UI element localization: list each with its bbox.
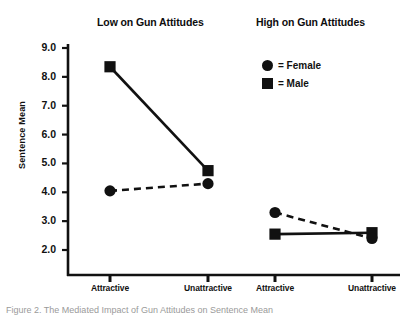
x-tick-label: Unattractive <box>184 283 232 293</box>
legend: = Female = Male <box>262 57 321 93</box>
square-marker-icon <box>202 165 213 176</box>
square-marker-icon <box>269 229 280 240</box>
circle-marker-icon <box>202 178 213 189</box>
plot-area <box>0 0 413 319</box>
figure-container: Low on Gun Attitudes High on Gun Attitud… <box>0 0 413 319</box>
series-line-female-low <box>110 184 208 191</box>
x-tick-label: Unattractive <box>348 283 396 293</box>
square-marker-icon <box>104 61 115 72</box>
circle-marker-icon <box>366 233 377 244</box>
x-tick-label: Attractive <box>91 283 129 293</box>
legend-label-male: = Male <box>278 78 309 89</box>
x-tick-label: Attractive <box>256 283 294 293</box>
legend-label-female: = Female <box>278 60 321 71</box>
square-marker-icon <box>262 78 273 89</box>
series-line-male-low <box>110 67 208 171</box>
circle-marker-icon <box>269 207 280 218</box>
figure-caption: Figure 2. The Mediated Impact of Gun Att… <box>6 305 411 317</box>
legend-entry-female: = Female <box>262 57 321 73</box>
circle-marker-icon <box>262 60 273 71</box>
circle-marker-icon <box>104 185 115 196</box>
legend-entry-male: = Male <box>262 75 321 91</box>
